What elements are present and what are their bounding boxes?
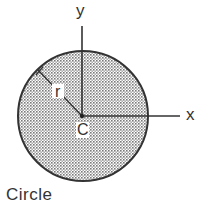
y-axis-label: y	[76, 2, 85, 19]
centroid-point	[80, 114, 84, 118]
centroid-label: C	[77, 122, 89, 138]
x-axis-label: x	[186, 106, 195, 123]
circle-diagram	[0, 0, 198, 212]
radius-label: r	[55, 84, 60, 100]
figure-caption: Circle	[6, 185, 52, 205]
